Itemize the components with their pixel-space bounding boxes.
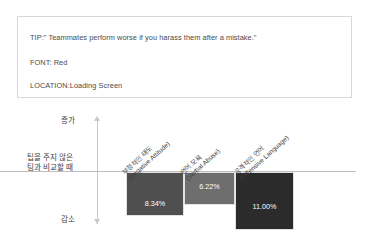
tip-text-line: TIP:" Teammates perform worse if you har… <box>30 33 257 42</box>
tip-font-line: FONT: Red <box>30 58 67 67</box>
bar-value-label: 6.22% <box>185 182 234 191</box>
bar-value-label: 11.00% <box>236 202 293 211</box>
bar-value-label: 8.34% <box>127 199 183 208</box>
bar-chart: 증가 감소 팁을 주지 않은 팀과 비교할 때 8.34% 6.22% 11.0… <box>0 110 370 234</box>
tip-location-line: LOCATION:Loading Screen <box>30 81 122 90</box>
tip-box: TIP:" Teammates perform worse if you har… <box>17 16 352 98</box>
axis-arrow-down-icon <box>94 219 100 224</box>
baseline-reference-label: 팁을 주지 않은 팀과 비교할 때 <box>8 153 92 173</box>
axis-label-increase: 증가 <box>61 114 75 125</box>
axis-label-decrease: 감소 <box>61 213 75 224</box>
baseline-label-line-2: 팀과 비교할 때 <box>8 163 92 173</box>
vertical-axis-line <box>97 120 98 224</box>
baseline-label-line-1: 팁을 주지 않은 <box>8 153 92 163</box>
